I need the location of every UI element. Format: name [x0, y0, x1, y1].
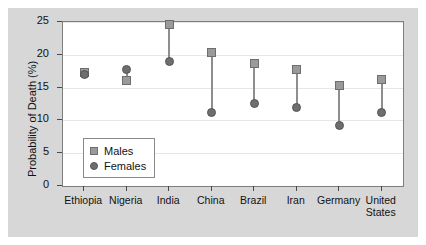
y-axis-tick-label: 10 — [23, 113, 49, 124]
legend-item: Females — [90, 158, 146, 173]
legend-item-label: Males — [104, 145, 133, 157]
x-axis-tick-label: Iran — [275, 194, 318, 206]
x-axis-tick — [253, 186, 254, 191]
legend: MalesFemales — [83, 138, 155, 178]
data-point-male — [165, 20, 174, 29]
y-axis-tick-label: 20 — [23, 48, 49, 59]
gridline — [63, 88, 403, 89]
x-axis-tick — [83, 186, 84, 191]
data-point-male — [122, 76, 131, 85]
gridline — [63, 22, 403, 23]
x-axis-tick — [211, 186, 212, 191]
plot-area: MalesFemales — [62, 21, 404, 187]
legend-square-icon — [90, 147, 98, 155]
y-axis-tick-label: 25 — [23, 15, 49, 26]
x-axis-tick — [126, 186, 127, 191]
data-point-female — [165, 57, 174, 66]
x-axis-tick — [381, 186, 382, 191]
legend-item: Males — [90, 143, 146, 158]
connector-line — [296, 69, 298, 107]
legend-item-label: Females — [104, 160, 146, 172]
connector-line — [211, 52, 213, 112]
data-point-male — [292, 65, 301, 74]
data-point-female — [250, 99, 259, 108]
gridline — [63, 55, 403, 56]
data-point-male — [335, 81, 344, 90]
y-axis-tick-label: 0 — [23, 179, 49, 190]
connector-line — [338, 86, 340, 126]
x-axis-tick — [296, 186, 297, 191]
x-axis-tick-label: Brazil — [232, 194, 275, 206]
x-axis-tick-label: India — [147, 194, 190, 206]
chart-root: Probability of Death (%) 0510152025 Male… — [0, 0, 426, 245]
y-axis-tick-label: 5 — [23, 146, 49, 157]
x-axis-tick-label: Nigeria — [105, 194, 148, 206]
data-point-male — [207, 48, 216, 57]
data-point-female — [80, 70, 89, 79]
legend-circle-icon — [90, 162, 98, 170]
x-axis-tick-label: China — [190, 194, 233, 206]
x-axis-tick-label: United States — [360, 194, 403, 218]
data-point-female — [335, 121, 344, 130]
data-point-female — [377, 108, 386, 117]
data-point-female — [122, 65, 131, 74]
data-point-female — [292, 103, 301, 112]
y-axis-tick-label: 15 — [23, 81, 49, 92]
x-axis-tick-label: Germany — [317, 194, 360, 206]
connector-line — [168, 25, 170, 62]
x-axis-tick — [168, 186, 169, 191]
data-point-male — [250, 59, 259, 68]
data-point-female — [207, 108, 216, 117]
gridline — [63, 120, 403, 121]
connector-line — [253, 63, 255, 103]
data-point-male — [377, 75, 386, 84]
x-axis-tick-label: Ethiopia — [62, 194, 105, 206]
x-axis-tick — [338, 186, 339, 191]
